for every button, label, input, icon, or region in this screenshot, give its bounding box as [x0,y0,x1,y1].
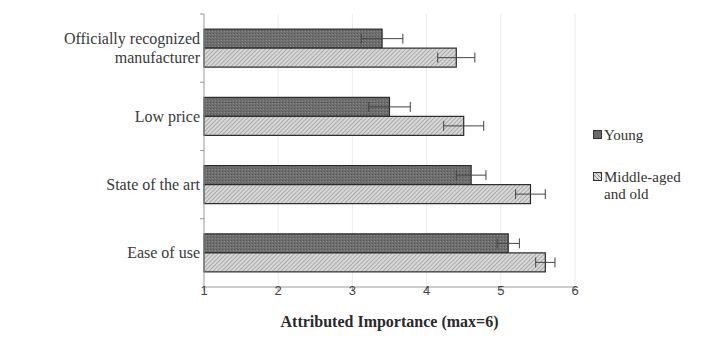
legend-item-middle-aged: Middle-aged and old [604,169,681,203]
legend-label-middle-aged-2: and old [604,186,649,202]
legend-label-young: Young [604,127,643,143]
category-label: Low price [135,107,200,126]
x-tick-label: 3 [342,283,362,298]
bars [204,29,555,272]
category-label: Officially recognized manufacturer [64,29,200,67]
legend-swatch-young [593,130,602,139]
category-label: Ease of use [127,243,200,262]
bar [204,48,456,67]
bar [204,253,545,272]
category-label: State of the art [106,175,200,194]
bar [204,116,464,135]
bar [204,185,530,204]
legend-swatch-middle-aged [593,172,602,181]
legend-item-young: Young [604,127,643,144]
x-tick-label: 6 [565,283,585,298]
legend-label-middle-aged-1: Middle-aged [604,169,681,185]
x-tick-label: 4 [417,283,437,298]
bar [204,29,382,48]
x-tick-label: 2 [268,283,288,298]
bar [204,166,471,185]
x-axis-label: Attributed Importance (max=6) [204,313,575,331]
x-tick-label: 5 [491,283,511,298]
bar [204,97,390,116]
x-tick-label: 1 [194,283,214,298]
bar [204,234,508,253]
